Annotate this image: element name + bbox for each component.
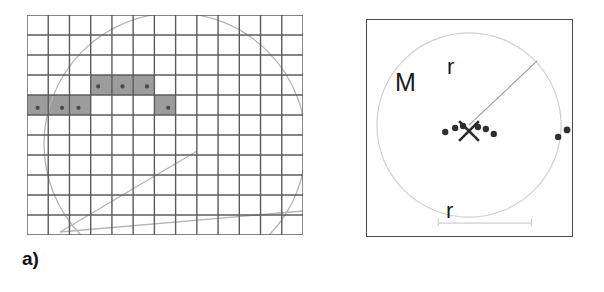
grid-lines-layer xyxy=(27,15,303,235)
radius-label-top: r xyxy=(447,56,454,78)
panel-b-circle xyxy=(377,33,561,217)
data-dot xyxy=(442,129,448,135)
data-dot xyxy=(452,125,458,131)
radius-label-bottom: r xyxy=(446,200,453,222)
panel-b-graphics xyxy=(367,20,572,236)
data-dot xyxy=(555,134,561,140)
raster-grid xyxy=(27,15,303,235)
panel-b-frame: M r r xyxy=(366,19,573,237)
figure-root: a) M r r b) xyxy=(0,0,604,292)
data-dot xyxy=(491,131,497,137)
data-dot xyxy=(564,127,571,134)
panel-label-a: a) xyxy=(22,248,39,270)
radius-line xyxy=(469,61,537,125)
panel-a: a) xyxy=(0,0,330,292)
data-dot xyxy=(483,126,489,132)
center-label-m: M xyxy=(395,70,416,95)
panel-b: M r r b) xyxy=(330,0,604,292)
